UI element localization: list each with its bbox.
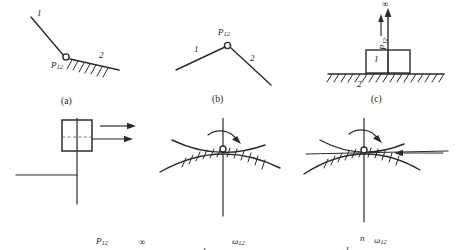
infinity-arrow-head-lower: [124, 136, 133, 142]
panel-c-link-1-label: 1: [374, 54, 379, 64]
panel-b-drawing: [152, 0, 298, 118]
panel-f-drawing: [298, 118, 457, 250]
panel-c-infinity-label: ∞: [382, 0, 388, 9]
panel-b: 1 2 P12 (b): [152, 0, 298, 118]
panel-e: 1 2 M P12 ω12 (e): [152, 118, 298, 250]
body-1-curve: [172, 140, 265, 152]
omega-arrow-head: [232, 136, 241, 144]
panel-e-link-1-label: 1: [202, 246, 207, 250]
infinity-arrow-head-secondary: [378, 14, 384, 22]
link-1-line: [31, 17, 64, 56]
pin-joint-icon: [63, 54, 69, 60]
infinity-arrow-head: [385, 8, 392, 17]
panel-a-instant-center-label: P12: [51, 60, 63, 70]
panel-a-drawing: [0, 0, 152, 118]
panel-b-link-1-label: 1: [194, 44, 199, 54]
ground-hatching: [327, 74, 444, 82]
infinity-arrows: [92, 126, 129, 139]
panel-d: 1 2 P12 ∞ (d): [0, 118, 152, 250]
kinematic-pairs-figure: 1 2 P12 (a) 1 2 P12 (b): [0, 0, 457, 250]
omega-arrow-head: [373, 135, 382, 143]
panel-f-link-1-label: 1: [345, 245, 350, 250]
panel-e-omega-label: ω12: [232, 236, 245, 246]
contact-point-icon: [220, 146, 226, 152]
panel-c-instant-center-label: P12: [378, 38, 388, 50]
panel-d-infinity-label: ∞: [139, 237, 145, 247]
panel-d-drawing: [0, 118, 152, 250]
infinity-arrow-head-upper: [127, 123, 136, 129]
panel-b-instant-center-label: P12: [218, 27, 230, 37]
panel-a-link-2-label: 2: [99, 50, 104, 60]
panel-b-caption: (b): [212, 94, 223, 104]
velocity-arrow-head: [394, 150, 403, 156]
panel-d-instant-center-label: P12: [96, 236, 108, 246]
panel-f-normal-top-label: n: [360, 233, 365, 243]
panel-a: 1 2 P12 (a): [0, 0, 152, 118]
panel-f: 1 2 M n n t t ω12 υM₁M₂ (f): [298, 118, 457, 250]
panel-b-link-2-label: 2: [250, 53, 255, 63]
panel-f-omega-label: ω12: [374, 235, 387, 245]
pin-joint-icon: [224, 42, 230, 48]
panel-c-link-2-label: 2: [357, 79, 362, 89]
panel-c: 1 2 P12 ∞ (c): [298, 0, 457, 118]
body-2-curve: [304, 154, 420, 174]
link-1-line: [176, 47, 225, 70]
panel-a-link-1-label: 1: [37, 8, 42, 18]
panel-c-caption: (c): [371, 94, 382, 104]
contact-point-icon: [361, 147, 367, 153]
panel-e-drawing: [152, 118, 298, 250]
panel-a-caption: (a): [61, 96, 72, 106]
